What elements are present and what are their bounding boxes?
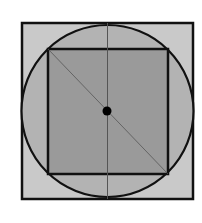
geometry-diagram bbox=[0, 0, 202, 223]
center-point bbox=[103, 107, 112, 116]
